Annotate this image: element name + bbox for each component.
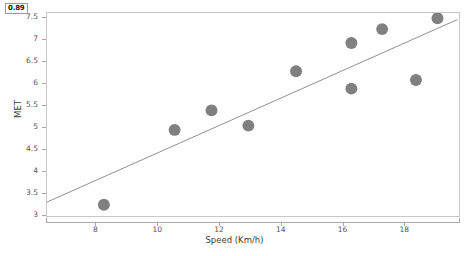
x-tick-label: 10 [152,226,162,234]
plot-canvas [47,13,459,216]
x-axis-baseline [46,222,460,223]
y-tick-mark [42,193,46,194]
y-tick-label: 4.5 [6,145,38,153]
y-tick-label: 4 [6,167,38,175]
data-point [345,83,357,95]
data-point [345,37,357,49]
x-axis-title: Speed (Km/h) [0,235,469,245]
data-point [376,23,388,35]
plot-area [46,12,460,217]
data-point [98,199,110,211]
data-point [432,13,444,24]
y-tick-mark [42,17,46,18]
x-tick-label: 8 [93,226,98,234]
x-tick-label: 18 [400,226,410,234]
x-tick-label: 12 [214,226,224,234]
y-axis-title: MET [13,79,23,139]
y-tick-mark [42,83,46,84]
y-tick-mark [42,61,46,62]
x-tick-label: 14 [276,226,286,234]
regression-line [47,20,457,203]
y-tick-mark [42,171,46,172]
y-tick-label: 3.5 [6,189,38,197]
y-tick-label: 7 [6,35,38,43]
y-tick-mark [42,127,46,128]
y-tick-mark [42,149,46,150]
x-axis-cap-right [459,218,460,223]
scatter-chart: 33.544.555.566.577.5 81012141618 0.89 Sp… [0,0,469,256]
y-tick-label: 7.5 [6,14,38,22]
data-points-group [98,13,444,211]
data-point [242,120,254,132]
x-tick-label: 16 [338,226,348,234]
r-squared-annotation: 0.89 [5,3,28,14]
trend-line [47,20,457,203]
y-tick-label: 3 [6,211,38,219]
y-tick-mark [42,39,46,40]
data-point [410,74,422,86]
y-tick-mark [42,215,46,216]
data-point [169,124,181,136]
y-tick-mark [42,105,46,106]
data-point [206,104,218,116]
y-tick-label: 6.5 [6,57,38,65]
x-axis-cap-left [46,218,47,223]
data-point [290,65,302,77]
